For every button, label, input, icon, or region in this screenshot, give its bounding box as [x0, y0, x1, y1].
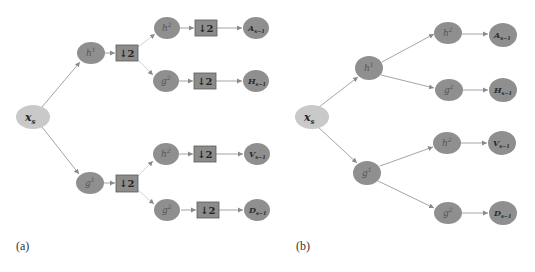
output-node-V: Vs−1: [488, 131, 516, 155]
edge-h1-h2: [382, 34, 434, 62]
downsample-box-g2-top: ↓2: [194, 73, 216, 89]
filter-node-h2-bottom: h2: [153, 143, 179, 165]
filter-node-g2-bottom: g2: [154, 199, 180, 221]
wavelet-decomposition-figure: xs h1 ↓2 g1 ↓2 h2: [0, 0, 535, 272]
edge-h1-g2: [381, 75, 434, 88]
panel-b: xs h1 g1 h2 As−1 g2: [295, 22, 517, 225]
downsample-box-g2-bottom: ↓2: [197, 202, 219, 218]
output-node-D: Ds−1: [489, 201, 517, 225]
filter-node-h1: h1: [355, 56, 383, 80]
edge-ds-h2a: [138, 34, 155, 47]
downsample-box-h2-top: ↓2: [195, 20, 217, 36]
svg-text:↓2: ↓2: [119, 178, 134, 189]
edge-ds-g2a: [138, 60, 153, 75]
output-node-A: As−1: [489, 23, 517, 47]
edge-xs-g1: [318, 127, 357, 163]
output-node-D: Ds−1: [244, 199, 270, 221]
downsample-box-g1: ↓2: [116, 175, 138, 192]
filter-node-g2-top: g2: [435, 79, 463, 101]
filter-node-h2-top: h2: [154, 17, 180, 39]
filter-node-h2-top: h2: [434, 22, 462, 44]
output-node-V: Vs−1: [244, 143, 270, 165]
diagram-svg: xs h1 ↓2 g1 ↓2 h2: [0, 0, 535, 272]
svg-text:↓2: ↓2: [197, 149, 212, 160]
svg-text:↓2: ↓2: [198, 23, 213, 34]
output-node-A: As−1: [243, 17, 269, 39]
edge-ds-h2b: [138, 161, 153, 176]
input-node-xs: xs: [16, 105, 50, 129]
output-node-H: Hs−1: [243, 70, 269, 92]
edge-g1-g2: [378, 181, 434, 208]
edge-xs-h1: [319, 77, 358, 107]
filter-node-g1: g1: [353, 161, 381, 185]
filter-node-g2-bottom: g2: [434, 202, 462, 224]
edge-ds-g2b: [138, 190, 154, 204]
panel-a: xs h1 ↓2 g1 ↓2 h2: [16, 17, 270, 221]
filter-node-h1: h1: [77, 42, 105, 64]
filter-node-g1: g1: [76, 172, 104, 194]
svg-text:↓2: ↓2: [197, 76, 212, 87]
panel-label-b: (b): [296, 239, 310, 254]
svg-text:↓2: ↓2: [200, 205, 215, 216]
edge-xs-h1: [42, 62, 80, 107]
input-node-xs: xs: [295, 105, 329, 129]
panel-label-a: (a): [16, 239, 29, 254]
panel-b-edges: [318, 34, 488, 213]
filter-node-h2-bottom: h2: [433, 132, 461, 154]
downsample-box-h1: ↓2: [116, 45, 138, 61]
downsample-box-h2-bottom: ↓2: [194, 146, 216, 162]
filter-node-g2-top: g2: [153, 70, 179, 92]
svg-text:↓2: ↓2: [119, 48, 134, 59]
output-node-H: Hs−1: [489, 78, 517, 102]
panel-a-edges: [42, 28, 243, 210]
edge-g1-h2: [380, 147, 433, 166]
edge-xs-g1: [42, 127, 79, 174]
